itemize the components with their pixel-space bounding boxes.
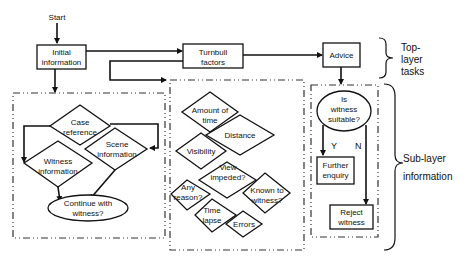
turnbull-factors-box[interactable]: Turnbull factors xyxy=(183,44,243,68)
svg-text:time: time xyxy=(202,116,218,125)
svg-text:Time: Time xyxy=(203,206,221,215)
svg-text:Errors: Errors xyxy=(233,220,255,229)
is-witness-suitable-ellipse[interactable]: Is witness suitable? xyxy=(317,91,371,131)
svg-text:Any: Any xyxy=(181,183,195,192)
svg-text:Continue with: Continue with xyxy=(64,199,112,208)
further-enquiry-box[interactable]: Further enquiry xyxy=(317,157,354,184)
start-label: Start xyxy=(49,13,67,22)
svg-text:Known to: Known to xyxy=(250,186,284,195)
svg-text:information: information xyxy=(403,171,452,182)
svg-text:Distance: Distance xyxy=(224,131,256,140)
advice-box[interactable]: Advice xyxy=(323,43,360,67)
top-layer-brace xyxy=(379,38,393,78)
svg-text:information: information xyxy=(42,58,82,67)
svg-text:Reject: Reject xyxy=(340,208,363,217)
svg-text:factors: factors xyxy=(201,58,225,67)
svg-text:View: View xyxy=(219,163,236,172)
svg-text:Initial: Initial xyxy=(52,48,71,57)
svg-text:lapse: lapse xyxy=(202,216,222,225)
svg-text:suitable?: suitable? xyxy=(328,115,361,124)
svg-text:witness?: witness? xyxy=(250,196,283,205)
svg-text:Visibility: Visibility xyxy=(187,147,216,156)
svg-text:enquiry: enquiry xyxy=(322,171,348,180)
reject-witness-box[interactable]: Reject witness xyxy=(330,205,373,229)
no-label: N xyxy=(355,141,362,151)
svg-text:information: information xyxy=(97,150,137,159)
svg-text:Further: Further xyxy=(323,161,349,170)
sub-layer-brace xyxy=(384,84,403,250)
svg-text:reason?: reason? xyxy=(174,193,203,202)
initial-information-box[interactable]: Initial information xyxy=(37,45,86,69)
svg-text:Amount of: Amount of xyxy=(192,106,229,115)
svg-text:information: information xyxy=(38,167,78,176)
top-layer-label: Top- xyxy=(401,42,420,53)
svg-text:Turnbull: Turnbull xyxy=(199,48,228,57)
svg-text:witness: witness xyxy=(330,105,358,114)
continue-with-witness-ellipse[interactable]: Continue with witness? xyxy=(48,195,128,221)
svg-text:Is: Is xyxy=(341,95,347,104)
svg-text:Advice: Advice xyxy=(329,51,354,60)
witness-information-diamond[interactable]: Witness information xyxy=(24,141,92,187)
svg-text:Witness: Witness xyxy=(44,157,72,166)
svg-text:layer: layer xyxy=(401,54,423,65)
svg-text:reference: reference xyxy=(63,128,97,137)
flowchart-diagram: Start Initial information Turnbull facto… xyxy=(0,0,464,264)
arrow-turnbull-to-mid-group xyxy=(110,61,183,80)
svg-text:impeded?: impeded? xyxy=(210,173,246,182)
svg-text:witness: witness xyxy=(337,218,365,227)
svg-text:Case: Case xyxy=(71,118,90,127)
svg-text:tasks: tasks xyxy=(401,66,424,77)
svg-text:witness?: witness? xyxy=(71,209,104,218)
sub-layer-label: Sub-layer xyxy=(403,153,446,164)
yes-label: Y xyxy=(331,141,337,151)
svg-text:Scene: Scene xyxy=(106,140,129,149)
